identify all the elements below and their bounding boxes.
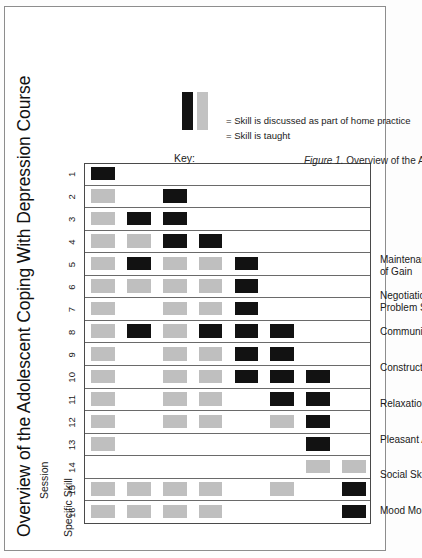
session-tick-label: 14 [66,456,77,479]
session-tick-label: 4 [66,231,77,254]
skill-label: Communication [380,326,422,338]
skill-label: Mood Monitoring [380,505,422,517]
figure-caption-text: Overview of the Adolescent Coping With D… [343,155,422,166]
session-column [85,365,370,388]
session-tick-label: 8 [66,321,77,344]
skill-label-line: Pleasant Activities [380,434,422,446]
session-tick-label: 12 [66,411,77,434]
skill-label-line: Constructive Thinking [380,362,422,374]
skill-label: Social Skills [380,469,422,481]
x-axis-label: Session [38,462,50,499]
figure-caption: Figure 1. Overview of the Adolescent Cop… [304,155,422,166]
session-column [85,388,370,411]
session-tick-label: 15 [66,479,77,502]
session-column [85,185,370,208]
legend-entry-label: = Skill is discussed as part of home pra… [226,115,411,126]
session-column [85,275,370,298]
session-tick-label: 3 [66,208,77,231]
session-column [85,455,370,478]
skill-label-group: Mood MonitoringSocial SkillsPleasant Act… [376,163,422,524]
skill-label: Relaxation [380,398,422,410]
session-tick-label: 2 [66,186,77,209]
legend: Key: = Skill is taught= Skill is discuss… [174,2,294,152]
skill-label-line: Mood Monitoring [380,505,422,517]
session-column [85,478,370,501]
skill-label-line: Social Skills [380,469,422,481]
skill-label-line: Maintenance [380,254,422,266]
session-column [85,207,370,230]
session-tick-label: 5 [66,253,77,276]
legend-entry-label: = Skill is taught [226,130,290,141]
session-column [85,252,370,275]
session-tick-label: 11 [66,389,77,412]
session-column [85,500,370,523]
session-column [85,433,370,456]
session-tick-label: 10 [66,366,77,389]
session-tick-label: 6 [66,276,77,299]
skill-label-line: Relaxation [380,398,422,410]
session-tick-label: 1 [66,163,77,186]
legend-swatch-home-practice [197,92,208,130]
session-column [85,410,370,433]
legend-title: Key: [174,152,195,164]
session-tick-label: 9 [66,344,77,367]
session-tick-label: 7 [66,298,77,321]
skill-label: Maintenanceof Gain [380,254,422,277]
skill-label: Pleasant Activities [380,434,422,446]
figure-caption-label: Figure 1. [304,155,343,166]
chart-plot-area [84,163,371,524]
legend-swatch-taught [182,92,193,130]
skill-label-line: of Gain [380,266,422,278]
session-column [85,297,370,320]
skill-label-line: Communication [380,326,422,338]
scanned-page: Overview of the Adolescent Coping With D… [0,0,422,558]
session-column [85,343,370,366]
session-column [85,230,370,253]
page-title: Overview of the Adolescent Coping With D… [14,76,35,537]
skill-label-line: Negotiation and [380,290,422,302]
skill-label-line: Problem Solving [380,302,422,314]
skill-label: Negotiation andProblem Solving [380,290,422,313]
session-tick-label: 13 [66,434,77,457]
skill-label: Constructive Thinking [380,362,422,374]
session-column [85,320,370,343]
session-tick-label: 16 [66,501,77,524]
rotated-figure-stage: Overview of the Adolescent Coping With D… [4,6,386,551]
